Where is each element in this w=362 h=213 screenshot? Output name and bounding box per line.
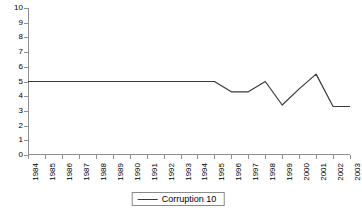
y-axis-tick-label: 3: [19, 107, 23, 115]
x-axis-tick: [231, 155, 232, 159]
x-axis-tick-label: 2001: [320, 163, 328, 181]
plot-area: 012345678910 198419851986198719881989199…: [28, 8, 350, 155]
x-axis-tick-label: 2003: [354, 163, 362, 181]
x-axis-tick-label: 2002: [337, 163, 345, 181]
x-axis-tick: [316, 155, 317, 159]
y-axis-tick-label: 0: [19, 151, 23, 159]
x-axis-tick: [333, 155, 334, 159]
x-axis-tick: [79, 155, 80, 159]
x-axis-tick-label: 1997: [252, 163, 260, 181]
x-axis-tick: [28, 155, 29, 159]
x-axis-tick: [45, 155, 46, 159]
legend-line-swatch-icon: [138, 199, 158, 200]
x-axis-tick: [130, 155, 131, 159]
x-axis-tick: [147, 155, 148, 159]
x-axis-tick-label: 2000: [303, 163, 311, 181]
x-axis-tick: [181, 155, 182, 159]
x-axis-tick: [62, 155, 63, 159]
x-axis-tick-label: 1994: [201, 163, 209, 181]
y-axis-tick-label: 7: [19, 48, 23, 56]
x-axis-tick-label: 1984: [32, 163, 40, 181]
legend-item-label: Corruption 10: [162, 195, 217, 204]
series-corruption-10: [28, 8, 350, 155]
x-axis-tick: [299, 155, 300, 159]
x-axis-tick-label: 1990: [134, 163, 142, 181]
x-axis-tick-label: 1999: [286, 163, 294, 181]
y-axis-tick-label: 2: [19, 122, 23, 130]
x-axis-tick-label: 1989: [117, 163, 125, 181]
x-axis-tick-label: 1996: [235, 163, 243, 181]
x-axis-tick-label: 1992: [168, 163, 176, 181]
series-line: [28, 74, 350, 106]
x-axis-tick-label: 1995: [218, 163, 226, 181]
x-axis-tick-label: 1986: [66, 163, 74, 181]
chart-legend: Corruption 10: [132, 192, 225, 206]
x-axis-tick: [113, 155, 114, 159]
x-axis-tick: [350, 155, 351, 159]
y-axis-tick-label: 6: [19, 63, 23, 71]
x-axis-tick-label: 1988: [100, 163, 108, 181]
x-axis-tick: [164, 155, 165, 159]
x-axis-tick: [248, 155, 249, 159]
x-axis-tick-label: 1993: [185, 163, 193, 181]
x-axis-tick-label: 1991: [151, 163, 159, 181]
y-axis-tick-label: 10: [14, 4, 23, 12]
x-axis-tick: [282, 155, 283, 159]
y-axis-tick-label: 8: [19, 33, 23, 41]
x-axis-tick-label: 1987: [83, 163, 91, 181]
x-axis-tick-label: 1985: [49, 163, 57, 181]
y-axis-tick-label: 1: [19, 136, 23, 144]
x-axis-tick-label: 1998: [269, 163, 277, 181]
x-axis-tick: [197, 155, 198, 159]
x-axis-tick: [265, 155, 266, 159]
x-axis-tick: [96, 155, 97, 159]
y-axis-tick-label: 5: [19, 78, 23, 86]
y-axis-tick-label: 4: [19, 92, 23, 100]
y-axis-tick-label: 9: [19, 19, 23, 27]
x-axis-tick: [214, 155, 215, 159]
